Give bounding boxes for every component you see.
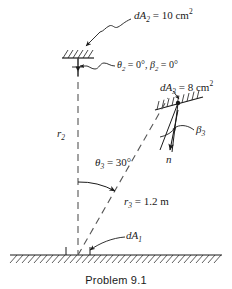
label-r3: r3 = 1.2 m <box>124 196 169 210</box>
ground-plane-hatch <box>10 247 222 263</box>
label-dA3: dA3 = 8 cm2 <box>160 80 213 95</box>
label-normal-n: n <box>166 154 172 165</box>
da1-leader <box>90 237 125 250</box>
label-r2: r2 <box>57 128 65 142</box>
label-theta3: θ3 = 30° <box>95 157 131 171</box>
label-angles-2: θ2 = 0°, β2 = 0° <box>117 60 178 73</box>
figure-graphics <box>0 0 232 289</box>
ray-r3 <box>78 98 168 255</box>
label-dA2: dA2 = 10 cm2 <box>134 8 193 23</box>
angles2-leader <box>80 63 115 69</box>
label-dA1: dA1 <box>126 230 142 244</box>
da2-leader <box>86 19 131 46</box>
theta3-arc <box>78 182 115 191</box>
problem-figure: dA2 = 10 cm2 θ2 = 0°, β2 = 0° dA3 = 8 cm… <box>0 0 232 289</box>
inclined-surface-hatch <box>155 90 203 152</box>
beta3-arc <box>160 126 194 137</box>
label-beta3: β3 <box>196 124 205 138</box>
figure-caption: Problem 9.1 <box>0 274 232 286</box>
